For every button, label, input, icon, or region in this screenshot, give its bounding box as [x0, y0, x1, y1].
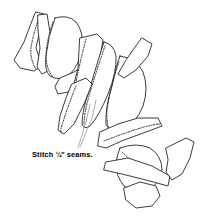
- illustration-canvas: [0, 0, 210, 221]
- caption-prefix: Stitch: [32, 150, 56, 159]
- pattern-piece: [46, 17, 83, 79]
- pattern-piece: [166, 138, 194, 180]
- caption-fraction: ¼″: [56, 151, 65, 158]
- caption-text: Stitch ¼″ seams.: [32, 150, 93, 160]
- caption-suffix: seams.: [65, 150, 93, 159]
- pattern-pieces-drawing: [0, 0, 210, 221]
- pattern-piece: [124, 182, 160, 208]
